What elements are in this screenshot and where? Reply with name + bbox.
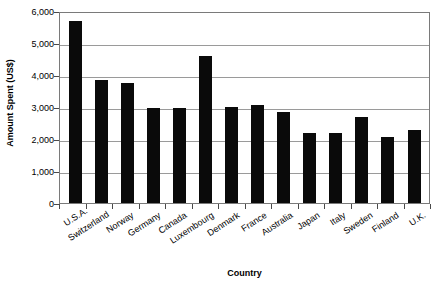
bar [303, 133, 316, 203]
bar-slot [114, 13, 140, 203]
x-axis-tick-mark [165, 204, 166, 209]
x-axis-tick-mark [218, 204, 219, 209]
bar-slot [88, 13, 114, 203]
y-axis-tick-label: 1,000 [31, 167, 54, 177]
x-axis-tick-mark [245, 204, 246, 209]
bar [147, 108, 160, 203]
x-axis-tick-mark [59, 204, 60, 209]
x-axis-tick-mark [192, 204, 193, 209]
y-axis-tick-label: 3,000 [31, 103, 54, 113]
bar-slot [297, 13, 323, 203]
bar [121, 83, 134, 203]
bar [95, 80, 108, 203]
y-axis-title: Amount Spent (US$) [0, 0, 20, 205]
y-axis-tick-mark [54, 44, 59, 45]
y-axis-tick-label: 2,000 [31, 135, 54, 145]
x-axis-tick-mark [430, 204, 431, 209]
x-axis-tick-mark [351, 204, 352, 209]
x-axis-tick-mark [271, 204, 272, 209]
bars-container [60, 13, 429, 203]
y-axis-tick-mark [54, 204, 59, 205]
bar-chart: Amount Spent (US$) 01,0002,0003,0004,000… [0, 0, 440, 289]
y-axis-title-text: Amount Spent (US$) [5, 59, 15, 147]
x-axis-title: Country [59, 268, 430, 278]
bar [408, 130, 421, 203]
bar-slot [140, 13, 166, 203]
bar [199, 56, 212, 203]
bar-slot [166, 13, 192, 203]
bar [355, 117, 368, 203]
bar-slot [192, 13, 218, 203]
bar-slot [375, 13, 401, 203]
bar [69, 21, 82, 203]
bar-slot [349, 13, 375, 203]
x-axis-tick-mark [139, 204, 140, 209]
bar-slot [245, 13, 271, 203]
y-axis-tick-mark [54, 140, 59, 141]
y-axis-tick-mark [54, 108, 59, 109]
bar-slot [218, 13, 244, 203]
x-axis-tick-mark [324, 204, 325, 209]
bar [251, 105, 264, 203]
y-axis-tick-mark [54, 12, 59, 13]
y-axis-tick-label: 6,000 [31, 7, 54, 17]
bar-slot [62, 13, 88, 203]
bar [225, 107, 238, 203]
x-axis-tick-labels: U.S.A.SwitzerlandNorwayGermanyCanadaLuxe… [59, 210, 430, 262]
x-axis-tick-mark [298, 204, 299, 209]
y-axis-tick-labels: 01,0002,0003,0004,0005,0006,000 [20, 12, 58, 204]
y-axis-tick-label: 5,000 [31, 39, 54, 49]
bar-slot [323, 13, 349, 203]
bar [277, 112, 290, 203]
bar [381, 137, 394, 203]
bar-slot [271, 13, 297, 203]
x-axis-tick-mark [377, 204, 378, 209]
y-axis-tick-label: 4,000 [31, 71, 54, 81]
plot-area [59, 12, 430, 204]
y-axis-tick-mark [54, 76, 59, 77]
x-axis-tick-mark [404, 204, 405, 209]
bar [329, 133, 342, 203]
bar-slot [401, 13, 427, 203]
x-axis-tick-mark [112, 204, 113, 209]
x-axis-tick-mark [86, 204, 87, 209]
bar [173, 108, 186, 203]
y-axis-tick-mark [54, 172, 59, 173]
